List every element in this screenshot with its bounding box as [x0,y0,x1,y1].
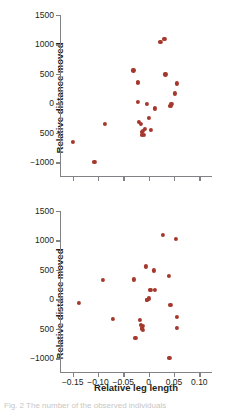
y-tick-bottom-2 [56,270,60,271]
data-point [153,288,157,292]
data-point [149,128,153,132]
y-tick-top-5 [56,162,60,163]
y-tick-label-bottom-5: −1000 [30,354,54,363]
data-point [152,268,156,272]
data-point [138,318,142,322]
x-tick-top-5 [199,177,200,181]
data-point [145,102,149,106]
data-point [141,324,145,328]
y-tick-label-top-1: 1000 [35,40,54,49]
y-tick-label-bottom-1: 1000 [35,236,54,245]
caption-fragment: Fig. 2 The number of the observed indivi… [4,402,166,410]
y-tick-bottom-0 [56,211,60,212]
data-point [132,277,136,281]
y-tick-bottom-4 [56,329,60,330]
y-tick-label-top-2: 500 [40,70,54,79]
y-tick-top-1 [56,44,60,45]
y-axis-line-top [60,15,61,177]
data-point [147,115,151,119]
y-tick-bottom-1 [56,240,60,241]
caption-strip: Fig. 2 The number of the observed indivi… [0,402,233,411]
data-point [133,336,137,340]
y-tick-label-top-5: −1000 [30,158,54,167]
data-point [102,122,106,126]
x-tick-top-2 [123,177,124,181]
data-point [161,233,165,237]
y-axis-line-bottom [60,211,61,373]
data-point [147,296,151,300]
data-point [149,288,153,292]
plot-area-bottom: 150010005000500−1000−0.15−0.10−0.0500.05… [60,211,212,373]
plot-area-top: 150010005000500−1000 [60,15,212,177]
data-point [158,40,162,44]
y-tick-label-top-4: 500 [40,129,54,138]
data-point [174,315,178,319]
data-point [144,264,148,268]
y-tick-label-bottom-4: 500 [40,325,54,334]
y-tick-top-2 [56,74,60,75]
data-point [162,36,166,40]
data-point [131,68,135,72]
chart-panel-bottom: Relative distance moved 150010005000500−… [0,196,233,411]
x-tick-top-3 [149,177,150,181]
data-point [173,91,177,95]
y-tick-label-bottom-2: 500 [40,266,54,275]
data-point [143,127,147,131]
y-tick-label-top-3: 0 [49,99,54,108]
y-tick-top-0 [56,15,60,16]
data-point [168,303,172,307]
y-tick-bottom-5 [56,358,60,359]
x-axis-title-bottom: Relative leg length [60,382,212,393]
x-axis-line-top [60,176,212,177]
data-point [92,160,96,164]
x-tick-top-4 [174,177,175,181]
y-tick-top-3 [56,103,60,104]
y-tick-top-4 [56,133,60,134]
data-point [135,100,139,104]
y-tick-bottom-3 [56,299,60,300]
data-point [142,133,146,137]
data-point [175,326,179,330]
data-point [111,317,115,321]
data-point [169,102,173,106]
chart-panel-top: Relative distance moved 150010005000500−… [0,0,233,196]
data-point [167,273,171,277]
data-point [101,278,105,282]
x-tick-top-0 [73,177,74,181]
scatter-figure: Relative distance moved 150010005000500−… [0,0,233,411]
data-point [173,237,177,241]
data-point [139,122,143,126]
y-tick-label-bottom-3: 0 [49,295,54,304]
data-point [153,106,157,110]
data-point [174,81,178,85]
data-point [140,328,144,332]
data-point [71,140,75,144]
y-tick-label-bottom-0: 1500 [35,207,54,216]
data-point [77,301,81,305]
y-tick-label-top-0: 1500 [35,11,54,20]
x-axis-line-bottom [60,372,212,373]
data-point [167,356,171,360]
x-tick-top-1 [98,177,99,181]
data-point [163,72,167,76]
